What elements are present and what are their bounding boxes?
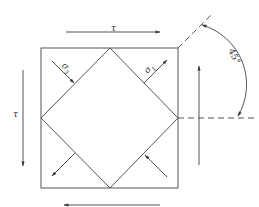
stress-element-diagram bbox=[0, 0, 259, 207]
diagonal-dashed-line bbox=[178, 14, 212, 48]
tau-left-label: τ bbox=[13, 110, 18, 119]
angle-arc bbox=[202, 25, 247, 116]
sigma1-bottom-left-arrow bbox=[52, 153, 75, 176]
tau-top-label: τ bbox=[111, 24, 116, 33]
sigma3-bottom-right-arrow bbox=[145, 155, 167, 177]
